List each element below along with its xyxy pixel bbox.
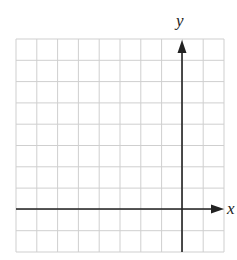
coordinate-grid: x y xyxy=(0,0,237,260)
y-axis-label: y xyxy=(174,11,184,30)
x-axis-arrow-icon xyxy=(211,205,224,214)
y-axis-arrow-icon xyxy=(178,40,187,53)
x-axis: x xyxy=(16,199,235,218)
grid-lines xyxy=(16,39,224,252)
x-axis-label: x xyxy=(226,199,235,218)
y-axis: y xyxy=(174,11,187,252)
